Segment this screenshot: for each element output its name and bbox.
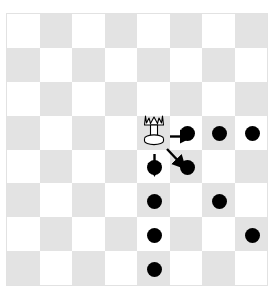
square-c1[interactable] (72, 251, 105, 285)
square-c4[interactable] (72, 150, 105, 184)
square-g7[interactable] (202, 48, 235, 82)
square-b5[interactable] (40, 116, 73, 150)
square-f3[interactable] (170, 183, 203, 217)
square-g3[interactable] (202, 183, 235, 217)
square-e3[interactable] (137, 183, 170, 217)
square-f4[interactable] (170, 150, 203, 184)
square-d8[interactable] (105, 14, 138, 48)
square-h8[interactable] (235, 14, 268, 48)
square-a5[interactable] (7, 116, 40, 150)
chessboard-squares (7, 14, 267, 285)
square-c5[interactable] (72, 116, 105, 150)
square-a2[interactable] (7, 217, 40, 251)
square-g2[interactable] (202, 217, 235, 251)
square-d1[interactable] (105, 251, 138, 285)
square-e7[interactable] (137, 48, 170, 82)
chessboard[interactable] (6, 13, 268, 286)
square-b8[interactable] (40, 14, 73, 48)
square-e1[interactable] (137, 251, 170, 285)
square-h6[interactable] (235, 82, 268, 116)
square-c2[interactable] (72, 217, 105, 251)
square-c6[interactable] (72, 82, 105, 116)
square-h5[interactable] (235, 116, 268, 150)
square-b3[interactable] (40, 183, 73, 217)
square-a4[interactable] (7, 150, 40, 184)
square-b4[interactable] (40, 150, 73, 184)
square-g4[interactable] (202, 150, 235, 184)
square-d2[interactable] (105, 217, 138, 251)
square-a7[interactable] (7, 48, 40, 82)
square-h1[interactable] (235, 251, 268, 285)
square-d3[interactable] (105, 183, 138, 217)
square-a8[interactable] (7, 14, 40, 48)
square-e8[interactable] (137, 14, 170, 48)
square-f7[interactable] (170, 48, 203, 82)
square-e6[interactable] (137, 82, 170, 116)
square-g6[interactable] (202, 82, 235, 116)
square-c8[interactable] (72, 14, 105, 48)
square-b7[interactable] (40, 48, 73, 82)
square-f8[interactable] (170, 14, 203, 48)
square-e4[interactable] (137, 150, 170, 184)
square-h7[interactable] (235, 48, 268, 82)
square-f6[interactable] (170, 82, 203, 116)
square-f2[interactable] (170, 217, 203, 251)
square-h3[interactable] (235, 183, 268, 217)
square-e2[interactable] (137, 217, 170, 251)
square-g1[interactable] (202, 251, 235, 285)
square-f5[interactable] (170, 116, 203, 150)
square-d6[interactable] (105, 82, 138, 116)
square-e5[interactable] (137, 116, 170, 150)
square-b2[interactable] (40, 217, 73, 251)
square-c7[interactable] (72, 48, 105, 82)
square-c3[interactable] (72, 183, 105, 217)
square-g8[interactable] (202, 14, 235, 48)
square-d7[interactable] (105, 48, 138, 82)
square-a1[interactable] (7, 251, 40, 285)
square-h4[interactable] (235, 150, 268, 184)
square-a3[interactable] (7, 183, 40, 217)
square-d4[interactable] (105, 150, 138, 184)
square-b1[interactable] (40, 251, 73, 285)
square-b6[interactable] (40, 82, 73, 116)
square-d5[interactable] (105, 116, 138, 150)
square-f1[interactable] (170, 251, 203, 285)
square-g5[interactable] (202, 116, 235, 150)
square-h2[interactable] (235, 217, 268, 251)
square-a6[interactable] (7, 82, 40, 116)
chess-queen-moves-figure (0, 0, 277, 298)
